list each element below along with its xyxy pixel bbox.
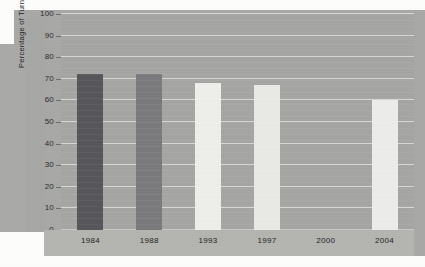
x-tick-label-1984: 1984 — [70, 237, 110, 245]
gridline-20 — [61, 186, 414, 187]
x-tick-label-1997: 1997 — [247, 237, 287, 245]
x-tick-label-1993: 1993 — [188, 237, 228, 245]
gridline-70 — [61, 78, 414, 79]
y-tick-label-20: 20 — [28, 183, 54, 191]
y-tick-label-10: 10 — [28, 204, 54, 212]
y-tick-label-70: 70 — [28, 75, 54, 83]
y-tick-label-40: 40 — [28, 140, 54, 148]
gridline-10 — [61, 207, 414, 208]
x-axis: 198419881993199720002004 — [44, 230, 414, 256]
bar-1993 — [195, 83, 221, 230]
page-margin-top — [14, 0, 425, 10]
x-tick-label-2004: 2004 — [365, 237, 405, 245]
bar-1988 — [136, 74, 162, 230]
gridline-90 — [61, 35, 414, 36]
bar-1984 — [77, 74, 103, 230]
scan-surround-left — [0, 44, 26, 240]
y-tick-label-30: 30 — [28, 161, 54, 169]
y-tick-label-90: 90 — [28, 32, 54, 40]
gridline-50 — [61, 121, 414, 122]
y-tick-label-50: 50 — [28, 118, 54, 126]
scan-banding — [61, 14, 414, 230]
x-tick-label-1988: 1988 — [129, 237, 169, 245]
bar-2004 — [372, 100, 398, 230]
page-margin-top-left — [0, 0, 14, 44]
y-tick-label-100: 100 — [28, 10, 54, 18]
gridline-60 — [61, 99, 414, 100]
y-tick-label-80: 80 — [28, 53, 54, 61]
y-tick-label-60: 60 — [28, 96, 54, 104]
y-axis-label: Percentage of Turnout — [17, 0, 26, 68]
gridline-40 — [61, 143, 414, 144]
bar-chart-figure: Percentage of Turnout 010203040506070809… — [0, 0, 425, 267]
gridline-100 — [61, 13, 414, 14]
gridline-80 — [61, 56, 414, 57]
page-margin-bottom — [0, 240, 14, 267]
plot-area — [61, 14, 414, 230]
bar-1997 — [254, 85, 280, 230]
gridline-30 — [61, 164, 414, 165]
x-tick-label-2000: 2000 — [306, 237, 346, 245]
